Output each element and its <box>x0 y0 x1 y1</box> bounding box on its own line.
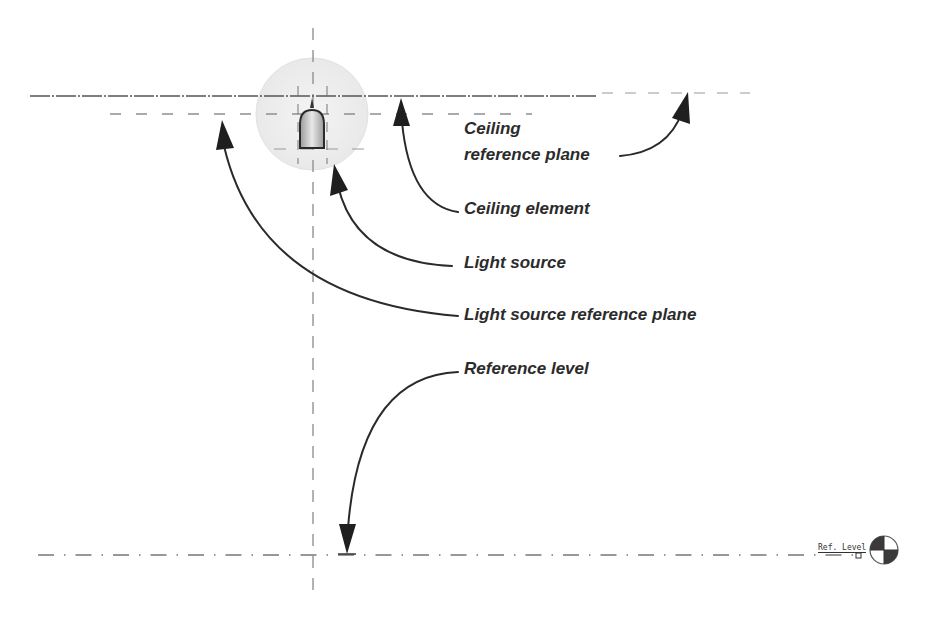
arrow-ceiling-reference-plane <box>672 92 690 124</box>
leader-light-source <box>338 186 452 266</box>
label-ceiling-line1: Ceiling <box>464 118 521 139</box>
label-reference-level: Reference level <box>464 358 589 379</box>
leader-light-source-reference-plane <box>224 146 458 316</box>
leader-reference-level <box>348 372 458 528</box>
level-name: Ref. Level <box>818 543 866 553</box>
label-ceiling-element: Ceiling element <box>464 198 590 219</box>
label-ceiling-reference-plane: reference plane <box>464 144 590 165</box>
leader-ceiling-reference-plane <box>620 112 682 156</box>
label-light-source: Light source <box>464 252 566 273</box>
label-light-source-reference-plane: Light source reference plane <box>464 304 696 325</box>
arrow-ceiling-element <box>393 98 410 126</box>
arrow-reference-level <box>339 524 356 554</box>
arrow-light-source-reference-plane <box>216 120 234 150</box>
arrow-light-source <box>330 164 348 196</box>
leader-ceiling-element <box>402 122 458 212</box>
